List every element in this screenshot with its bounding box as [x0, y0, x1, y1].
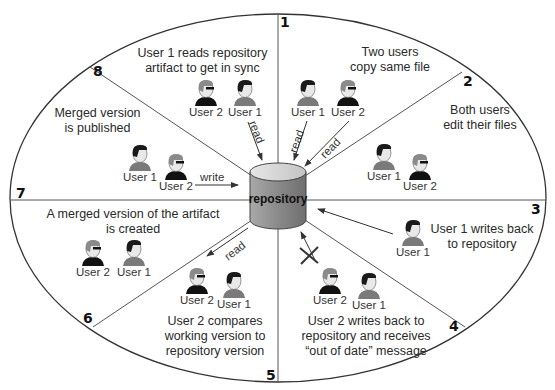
step-4-caption: User 2 writes back to repository and rec… — [286, 314, 446, 359]
user-2-avatar-icon — [162, 152, 190, 180]
step-number-1: 1 — [280, 14, 290, 30]
user-1-avatar-icon — [120, 238, 148, 266]
user-2-step2: User 2 — [400, 152, 440, 193]
user-1-avatar-icon — [370, 142, 398, 170]
user-1-step3: User 1 — [393, 218, 433, 259]
step-number-3: 3 — [531, 201, 541, 217]
user-1-step8: User 1 — [225, 78, 265, 119]
step-number-7: 7 — [16, 185, 26, 201]
user-2-step7: User 2 — [156, 152, 196, 193]
step-1-caption: Two users copy same file — [325, 45, 455, 75]
user-1-step6: User 1 — [114, 238, 154, 279]
blocked-x-icon — [300, 247, 318, 264]
user-1-step7: User 1 — [120, 143, 160, 184]
user-2-avatar-icon — [334, 78, 362, 106]
user-2-step5: User 2 — [177, 266, 217, 307]
user-1-step2: User 1 — [364, 142, 404, 183]
edge-label-write-step7: write — [200, 171, 224, 183]
user-1-avatar-icon — [399, 218, 427, 246]
step-number-2: 2 — [463, 73, 473, 89]
user-1-avatar-icon — [294, 78, 322, 106]
user-2-avatar-icon — [183, 266, 211, 294]
step-2-caption: Both users edit their files — [430, 103, 530, 133]
user-1-step1: User 1 — [288, 78, 328, 119]
repository-label: repository — [243, 192, 313, 206]
user-2-avatar-icon — [316, 266, 344, 294]
user-1-avatar-icon — [126, 143, 154, 171]
user-2-step1: User 2 — [328, 78, 368, 119]
step-number-6: 6 — [83, 310, 93, 326]
user-2-avatar-icon — [406, 152, 434, 180]
user-2-step4: User 2 — [310, 266, 350, 307]
step-number-4: 4 — [449, 318, 459, 334]
user-1-avatar-icon — [355, 271, 383, 299]
user-2-step6: User 2 — [73, 238, 113, 279]
step-5-caption: User 2 compares working version to repos… — [155, 314, 275, 359]
step-6-caption: A merged version of the artifact is crea… — [38, 207, 228, 237]
user-1-avatar-icon — [231, 78, 259, 106]
step-number-8: 8 — [93, 63, 103, 79]
step-3-caption: User 1 writes back to repository — [422, 222, 542, 252]
step-8-caption: User 1 reads repository artifact to get … — [135, 46, 270, 76]
arrow-write-step3 — [318, 209, 393, 234]
user-1-step4: User 1 — [349, 271, 389, 312]
user-1-step5: User 1 — [214, 270, 254, 311]
user-2-avatar-icon — [192, 78, 220, 106]
step-7-caption: Merged version is published — [45, 106, 150, 136]
user-2-avatar-icon — [79, 238, 107, 266]
step-number-5: 5 — [266, 367, 276, 383]
user-1-avatar-icon — [220, 270, 248, 298]
user-2-step8: User 2 — [186, 78, 226, 119]
